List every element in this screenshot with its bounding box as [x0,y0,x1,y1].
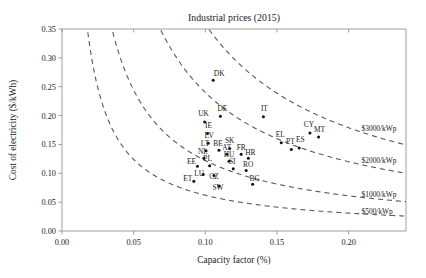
data-point-label: BG [249,174,260,183]
data-point-label: SI [229,157,236,166]
data-point-label: IT [261,104,268,113]
data-point [308,131,311,134]
data-point [245,169,248,172]
data-point-label: EE [187,157,197,166]
chart-figure: 0.000.050.100.150.200.250.300.350.000.05… [0,0,426,278]
data-point [232,167,235,170]
data-point-label: DK [214,69,225,78]
x-tick-label: 0.15 [270,238,285,247]
y-tick-label: 0.10 [41,169,56,178]
y-axis-title: Cost of electricity ($/kWh) [8,80,19,180]
chart-title: Industrial prices (2015) [188,12,280,24]
y-tick-label: 0.15 [41,140,56,149]
data-point [217,149,220,152]
curve-label: $2000/kWp [362,156,397,165]
data-point [192,180,195,183]
curve-label: $3000/kWp [362,124,397,133]
data-point [208,164,211,167]
data-point-label: DE [217,104,227,113]
data-point-label: EL [276,130,286,139]
data-point-label: SW [212,183,223,192]
data-point-label: RO [243,160,254,169]
x-tick-label: 0.00 [55,238,70,247]
x-tick-label: 0.05 [126,238,141,247]
data-point-label: UK [198,109,209,118]
x-tick-label: 0.20 [341,238,356,247]
x-tick-label: 0.10 [198,238,213,247]
data-point-label: PT [286,137,295,146]
data-point-label: IE [205,121,212,130]
data-point [290,148,293,151]
data-point-label: CZ [209,172,219,181]
curve-label: $1000/kWp [362,190,397,199]
scatter-chart: 0.000.050.100.150.200.250.300.350.000.05… [0,0,426,278]
data-point-label: ET [183,174,193,183]
y-tick-label: 0.30 [41,54,56,63]
y-tick-label: 0.35 [41,25,56,34]
data-point [317,135,320,138]
data-point [240,153,243,156]
data-point [219,115,222,118]
data-point [251,183,254,186]
data-point-label: MT [314,125,326,134]
data-point [262,115,265,118]
data-point [196,165,199,168]
data-point-label: HR [245,148,255,157]
data-point [298,146,301,149]
y-tick-label: 0.20 [41,112,56,121]
y-tick-label: 0.00 [41,227,56,236]
data-point-label: LU [194,169,205,178]
y-tick-label: 0.05 [41,198,56,207]
data-point [212,79,215,82]
curve-label: $500/kWp [362,207,394,216]
y-tick-label: 0.25 [41,83,56,92]
data-point-label: ES [296,135,305,144]
data-point [280,141,283,144]
data-point-label: PL [203,154,212,163]
x-axis-title: Capacity factor (%) [197,255,270,266]
